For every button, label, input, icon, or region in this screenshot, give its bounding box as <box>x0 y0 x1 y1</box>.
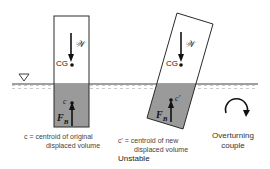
right-weight-label: 𝒲 <box>185 39 194 50</box>
diagram-title: Unstable <box>118 154 150 163</box>
couple-caption: Overturning couple <box>206 131 260 151</box>
left-buoyancy-label: FB <box>57 112 68 126</box>
couple-caption-line1: Overturning <box>206 131 260 141</box>
left-buoyancy-symbol: F <box>57 112 64 123</box>
left-buoyancy-subscript: B <box>64 118 69 126</box>
left-weight-label: 𝒲 <box>75 39 84 50</box>
left-caption-line2: displaced volume <box>18 141 128 150</box>
left-caption-line1: c = centroid of original <box>18 132 128 141</box>
couple-caption-line2: couple <box>206 141 260 151</box>
right-buoyancy-label: FB <box>156 109 167 123</box>
right-centroid-label: c' <box>175 94 180 103</box>
right-buoyancy-subscript: B <box>163 115 168 123</box>
right-caption-line1: c' = centroid of new <box>114 136 204 145</box>
left-centroid-label: c <box>63 97 67 106</box>
right-buoyancy-symbol: F <box>156 109 163 120</box>
right-cg-label: CG <box>166 59 178 68</box>
right-caption-line2: displaced volume <box>114 145 204 154</box>
left-cg-label: CG <box>56 59 68 68</box>
left-caption: c = centroid of original displaced volum… <box>18 132 128 150</box>
right-caption: c' = centroid of new displaced volume <box>114 136 204 154</box>
